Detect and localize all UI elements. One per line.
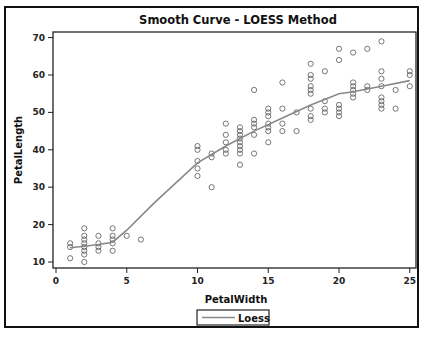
svg-text:70: 70 [32,33,45,43]
svg-text:10: 10 [32,257,45,267]
legend-label: Loess [238,313,270,324]
legend: Loess [197,310,270,325]
svg-text:30: 30 [32,182,45,192]
svg-text:25: 25 [403,276,416,286]
svg-text:20: 20 [32,220,45,230]
svg-text:0: 0 [53,276,59,286]
chart: Smooth Curve - LOESS Method 102030405060… [0,0,428,338]
svg-text:40: 40 [32,145,45,155]
x-axis: 0510152025 [53,268,416,286]
y-axis: 10203040506070 [32,33,53,267]
svg-text:5: 5 [124,276,130,286]
scatter-points [68,39,413,265]
y-axis-label: PetalLength [13,116,24,184]
svg-text:15: 15 [262,276,275,286]
svg-text:60: 60 [32,70,45,80]
loess-curve [70,81,410,248]
svg-text:20: 20 [333,276,346,286]
x-axis-label: PetalWidth [205,294,268,305]
svg-text:50: 50 [32,107,45,117]
plot-area [53,32,416,268]
svg-text:10: 10 [191,276,204,286]
chart-title: Smooth Curve - LOESS Method [139,13,337,27]
